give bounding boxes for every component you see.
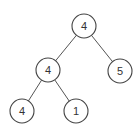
node-left-right: 1 bbox=[64, 99, 88, 123]
node-value: 5 bbox=[117, 65, 123, 77]
node-left: 4 bbox=[36, 58, 60, 82]
node-right: 5 bbox=[108, 59, 132, 83]
node-value: 1 bbox=[73, 105, 79, 117]
node-left-left: 4 bbox=[10, 99, 34, 123]
node-value: 4 bbox=[19, 105, 25, 117]
node-value: 4 bbox=[81, 20, 87, 32]
node-value: 4 bbox=[45, 64, 51, 76]
binary-tree-diagram: 4 4 5 4 1 bbox=[0, 0, 140, 134]
node-root: 4 bbox=[72, 14, 96, 38]
